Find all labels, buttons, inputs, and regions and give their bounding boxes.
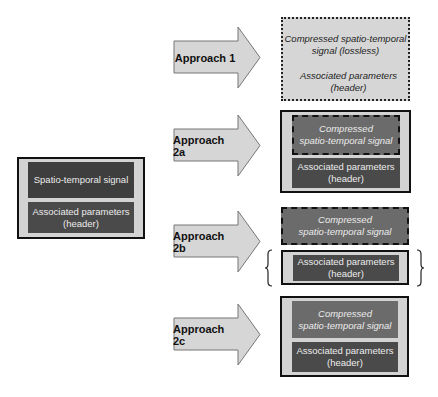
approach-2c-header-block: Associated parameters (header) <box>292 342 398 372</box>
approach-2a-label: Approach 2a <box>173 114 237 177</box>
approach-2a-arrow: Approach 2a <box>173 114 261 177</box>
approach-2a-result: Compressed spatio-temporal signal Associ… <box>280 110 411 193</box>
approach-2b-header-container: Associated parameters (header) <box>281 250 409 285</box>
approach-1-label: Approach 1 <box>173 26 237 89</box>
approach-1-header-text: Associated parameters (header) <box>286 70 411 94</box>
source-header-block: Associated parameters (header) <box>28 202 134 233</box>
left-brace-icon <box>264 249 274 287</box>
approach-2a-header-block: Associated parameters (header) <box>292 158 400 188</box>
approach-2c-label: Approach 2c <box>173 303 237 366</box>
approach-1-signal-text: Compressed spatio-temporal signal (lossl… <box>283 33 408 57</box>
approach-2a-signal-block: Compressed spatio-temporal signal <box>292 115 400 155</box>
approach-2b-arrow: Approach 2b <box>173 210 261 273</box>
right-brace-icon <box>415 249 425 287</box>
source-header-label-line2: (header) <box>63 218 99 230</box>
approach-2c-result: Compressed spatio-temporal signal Associ… <box>280 296 409 377</box>
approach-1-result: Compressed spatio-temporal signal (lossl… <box>281 17 410 101</box>
approach-2b-header-block: Associated parameters (header) <box>293 255 399 281</box>
source-signal-label: Spatio-temporal signal <box>34 174 129 186</box>
approach-2c-arrow: Approach 2c <box>173 303 261 366</box>
source-container: Spatio-temporal signal Associated parame… <box>17 157 145 239</box>
approach-2b-signal-block: Compressed spatio-temporal signal <box>281 207 409 245</box>
approach-2c-signal-block: Compressed spatio-temporal signal <box>292 301 398 338</box>
approach-2b-label: Approach 2b <box>173 210 237 273</box>
approach-1-arrow: Approach 1 <box>173 26 261 89</box>
source-header-label-line1: Associated parameters <box>32 206 129 218</box>
source-signal-block: Spatio-temporal signal <box>28 162 134 198</box>
